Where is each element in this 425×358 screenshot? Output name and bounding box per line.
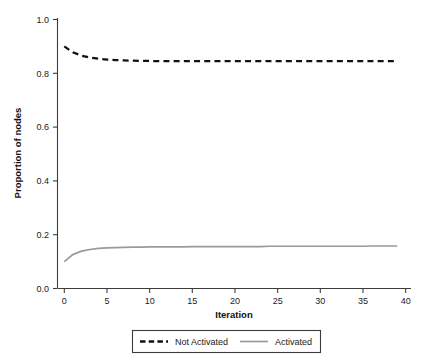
x-tick-label: 35 — [358, 296, 368, 306]
line-chart: 1.0 0.8 0.6 0.4 0.2 0.0 0 5 10 15 20 25 — [0, 0, 425, 358]
y-tick-label: 0.2 — [36, 230, 49, 240]
series-line-activated — [64, 246, 397, 262]
x-tick-label: 30 — [315, 296, 325, 306]
x-tick-label: 20 — [230, 296, 240, 306]
y-axis-title: Proportion of nodes — [12, 108, 23, 199]
series-line-not-activated — [64, 46, 397, 61]
x-tick-label: 40 — [401, 296, 411, 306]
chart-legend: Not Activated Activated — [133, 331, 321, 353]
x-axis-tick-labels: 0 5 10 15 20 25 30 35 40 — [62, 296, 411, 306]
y-tick-label: 0.0 — [36, 284, 49, 294]
y-tick-label: 0.6 — [36, 122, 49, 132]
x-tick-label: 0 — [62, 296, 67, 306]
x-tick-label: 5 — [104, 296, 109, 306]
x-tick-label: 25 — [273, 296, 283, 306]
x-axis-title: Iteration — [215, 309, 253, 320]
x-tick-label: 10 — [145, 296, 155, 306]
x-axis-ticks — [64, 289, 405, 294]
y-tick-label: 0.4 — [36, 176, 49, 186]
y-tick-label: 1.0 — [36, 15, 49, 25]
y-axis-ticks — [53, 20, 58, 289]
chart-figure: 1.0 0.8 0.6 0.4 0.2 0.0 0 5 10 15 20 25 — [0, 0, 425, 358]
legend-label-activated: Activated — [275, 337, 312, 347]
legend-label-not-activated: Not Activated — [175, 337, 228, 347]
y-tick-label: 0.8 — [36, 69, 49, 79]
y-axis-tick-labels: 1.0 0.8 0.6 0.4 0.2 0.0 — [36, 15, 49, 294]
x-tick-label: 15 — [187, 296, 197, 306]
